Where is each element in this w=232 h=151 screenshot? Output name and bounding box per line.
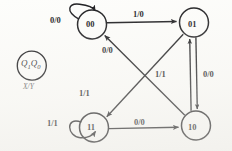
edge-label-01-to-11: 1/1 — [79, 89, 90, 98]
legend-state-encoding: Q1Q0 — [21, 58, 41, 70]
edge-10-to-01 — [190, 39, 191, 111]
state-diagram-canvas: 00 01 11 10 Q1Q0 X/Y 0/0 1/0 0/0 1/1 1/1… — [0, 0, 232, 151]
state-label-10: 10 — [188, 123, 196, 132]
edge-label-00-self: 0/0 — [50, 16, 61, 25]
state-label-00: 00 — [86, 20, 94, 29]
diagram-graphics — [0, 0, 232, 151]
edge-label-10-to-00: 0/0 — [102, 46, 113, 55]
edge-00-to-00 — [70, 4, 96, 20]
legend-q0-sub: 0 — [37, 63, 40, 70]
state-label-01: 01 — [188, 20, 196, 29]
legend-transition-format: X/Y — [23, 82, 34, 91]
edge-label-00-to-01: 1/0 — [133, 10, 144, 19]
edge-11-to-10 — [109, 127, 178, 128]
edge-label-11-to-10: 0/0 — [134, 118, 145, 127]
edge-00-to-01 — [107, 21, 176, 22]
edge-label-11-self: 1/1 — [47, 119, 58, 128]
edge-label-10-to-01: 1/1 — [155, 70, 166, 79]
edge-label-01-to-10: 0/0 — [203, 70, 214, 79]
state-label-11: 11 — [87, 123, 95, 132]
edge-01-to-10 — [196, 37, 197, 109]
